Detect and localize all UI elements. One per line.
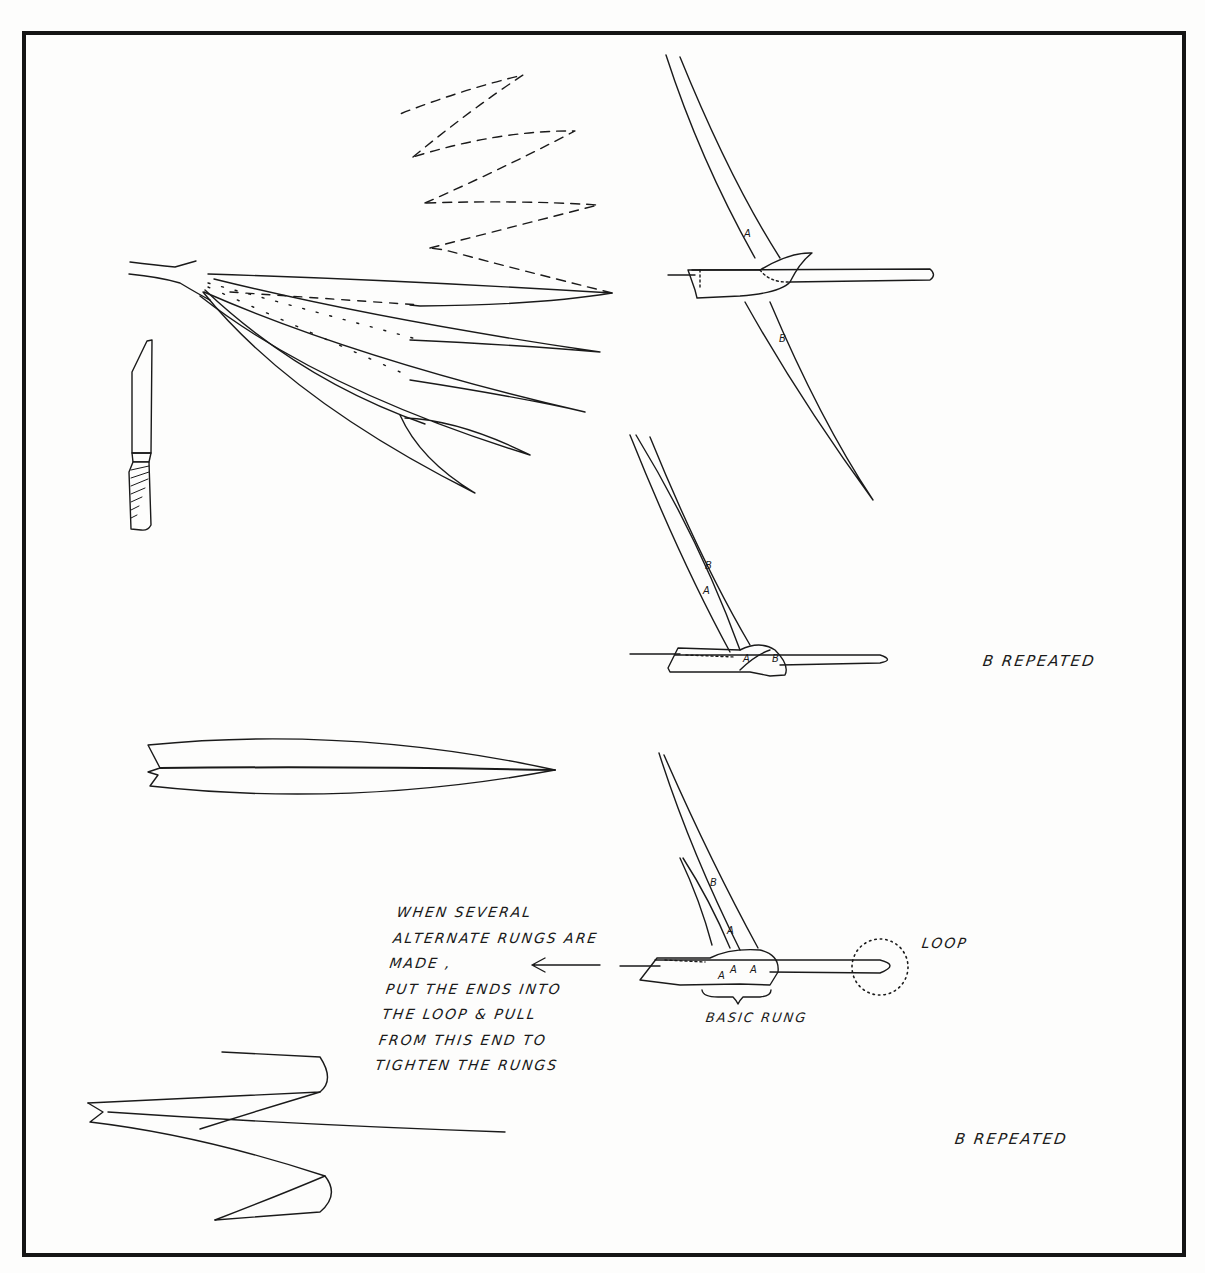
strand-label-a: A (718, 970, 725, 981)
b-repeated-label-bottom: B REPEATED (954, 1130, 1069, 1148)
rung-step-2-figure (630, 435, 888, 676)
rung-step-1-figure (666, 55, 934, 500)
note-line: FROM THIS END TO (377, 1028, 586, 1054)
note-line: THE LOOP & PULL (381, 1002, 590, 1028)
note-line: ALTERNATE RUNGS ARE (391, 926, 600, 952)
split-leaf-figure (148, 739, 555, 794)
knife-icon (129, 340, 152, 530)
strand-label-b: B (705, 560, 712, 571)
strand-label-b: B (772, 653, 779, 664)
note-line: PUT THE ENDS INTO (384, 977, 593, 1003)
strand-label-b: B (710, 877, 717, 888)
strand-label-a: A (743, 653, 750, 664)
strand-label-a: A (750, 964, 757, 975)
diagram-canvas (0, 0, 1205, 1273)
loop-label: LOOP (921, 935, 969, 951)
note-line: TIGHTEN THE RUNGS (373, 1053, 582, 1079)
strand-label-a: A (730, 964, 737, 975)
basic-rung-label: BASIC RUNG (705, 1010, 809, 1025)
strand-label-b: B (779, 333, 786, 344)
instruction-note: WHEN SEVERAL ALTERNATE RUNGS ARE MADE , … (373, 900, 603, 1079)
strand-label-a: A (727, 925, 734, 936)
b-repeated-label-top: B REPEATED (982, 652, 1097, 670)
note-line: WHEN SEVERAL (395, 900, 604, 926)
strand-label-a: A (703, 585, 710, 596)
note-line: MADE , (388, 951, 597, 977)
strand-label-a: A (744, 228, 751, 239)
leaf-fan-figure (129, 75, 612, 493)
